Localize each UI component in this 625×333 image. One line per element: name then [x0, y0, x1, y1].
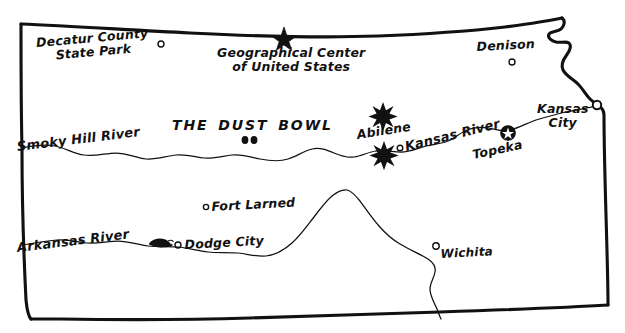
marker-fort-larned[interactable] [203, 204, 208, 209]
buffalo-horn-icon [169, 240, 174, 241]
two-dots-icon [242, 136, 258, 144]
label-geographical-center-line2: of United States [217, 60, 365, 74]
kansas-map: Decatur County State Park Geographical C… [0, 0, 625, 333]
label-kansas-city-line2: City [537, 116, 589, 130]
label-kansas-city-line1: Kansas [537, 102, 589, 116]
label-geographical-center-line1: Geographical Center [217, 46, 365, 60]
label-the-dust-bowl: THE DUST BOWL [172, 118, 333, 134]
marker-abilene[interactable] [397, 145, 403, 151]
label-geographical-center: Geographical Center of United States [217, 46, 365, 74]
marker-denison[interactable] [509, 59, 515, 65]
label-wichita: Wichita [440, 245, 493, 261]
marker-kansas-city[interactable] [593, 101, 601, 109]
marker-wichita[interactable] [433, 243, 439, 249]
marker-decatur-county-state-park[interactable] [158, 41, 164, 47]
starburst-icon-lower [369, 141, 398, 170]
label-kansas-city: Kansas City [537, 102, 589, 130]
